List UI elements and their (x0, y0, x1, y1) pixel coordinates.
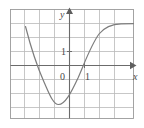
coordinate-plot-svg (0, 0, 144, 128)
grid-lines (11, 10, 134, 119)
y-axis-arrowhead-icon (66, 8, 73, 15)
x-axis-label: x (133, 72, 137, 82)
origin-label: 0 (60, 72, 65, 82)
plot-border (11, 10, 134, 119)
x-tick-label-1: 1 (85, 72, 90, 82)
y-axis-label: y (60, 10, 64, 20)
y-tick-label-1: 1 (61, 47, 66, 57)
curve-path (26, 24, 134, 105)
graph-figure: y x 0 1 1 (0, 0, 144, 128)
